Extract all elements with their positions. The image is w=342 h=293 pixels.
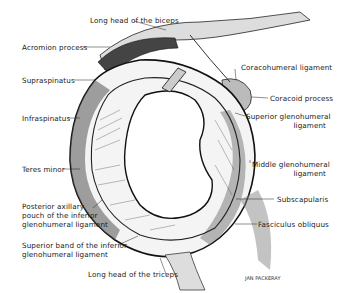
- label-middle-glenohumeral-line1: Middle glenohumeral: [252, 160, 326, 169]
- label-supraspinatus: Supraspinatus: [22, 76, 75, 85]
- label-superior-band-line2: glenohumeral ligament: [22, 250, 108, 259]
- artist-signature: JAN PACKERAY: [245, 275, 280, 281]
- label-posterior-pouch-line1: Posterior axillary: [22, 202, 84, 211]
- label-middle-glenohumeral-line2: ligament: [252, 169, 326, 178]
- label-long-head-triceps: Long head of the triceps: [88, 270, 178, 279]
- label-posterior-pouch-line3: glenohumeral ligament: [22, 220, 108, 229]
- label-coracohumeral-ligament: Coracohumeral ligament: [241, 63, 332, 72]
- label-long-head-biceps: Long head of the biceps: [90, 16, 179, 25]
- label-acromion-process: Acromion process: [22, 43, 87, 52]
- label-fasciculus-obliquus: Fasciculus obliquus: [258, 220, 329, 229]
- label-infraspinatus: Infraspinatus: [22, 114, 70, 123]
- label-subscapularis: Subscapularis: [277, 195, 328, 204]
- label-superior-glenohumeral-line2: ligament: [246, 121, 326, 130]
- label-posterior-pouch-line2: pouch of the inferior: [22, 211, 98, 220]
- label-superior-glenohumeral-line1: Superior glenohumeral: [246, 112, 326, 121]
- label-teres-minor: Teres minor: [22, 165, 65, 174]
- anatomy-figure: Long head of the biceps Acromion process…: [0, 0, 342, 293]
- label-coracoid-process: Coracoid process: [270, 94, 333, 103]
- label-superior-band-line1: Superior band of the inferior: [22, 241, 127, 250]
